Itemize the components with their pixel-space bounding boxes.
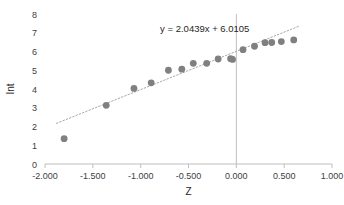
data-point xyxy=(215,56,222,63)
y-tick-label: 4 xyxy=(32,85,37,95)
x-axis-title: Z xyxy=(185,186,191,197)
data-point xyxy=(203,60,210,67)
data-point xyxy=(61,135,68,142)
data-point xyxy=(165,67,172,74)
data-point xyxy=(262,39,269,46)
data-point xyxy=(148,79,155,86)
y-tick-label: 1 xyxy=(32,141,37,151)
x-tick-label: -0.500 xyxy=(176,171,202,181)
x-tick-label: -1.500 xyxy=(80,171,106,181)
y-tick-label: 3 xyxy=(32,103,37,113)
x-tick-label: 0.000 xyxy=(225,171,248,181)
data-point xyxy=(190,60,197,67)
data-point xyxy=(268,39,275,46)
data-point xyxy=(240,46,247,53)
data-point xyxy=(251,43,258,50)
x-tick-label: -1.000 xyxy=(128,171,154,181)
y-tick-label: 0 xyxy=(32,160,37,170)
data-point xyxy=(229,56,236,63)
x-tick-label: -2.000 xyxy=(32,171,58,181)
y-tick-label: 7 xyxy=(32,28,37,38)
data-point xyxy=(178,66,185,73)
y-tick-label: 8 xyxy=(32,10,37,20)
x-tick-label: 1.000 xyxy=(321,171,344,181)
chart-canvas: -2.000-1.500-1.000-0.5000.0000.5001.0000… xyxy=(0,0,344,205)
y-axis-title: Int xyxy=(5,83,16,94)
x-tick-label: 0.500 xyxy=(273,171,296,181)
y-tick-label: 5 xyxy=(32,66,37,76)
data-point xyxy=(131,85,138,92)
y-tick-label: 6 xyxy=(32,47,37,57)
data-point xyxy=(103,102,110,109)
y-tick-label: 2 xyxy=(32,122,37,132)
trendline-equation: y = 2.0439x + 6.0105 xyxy=(160,23,249,34)
data-point xyxy=(290,36,297,43)
scatter-chart: -2.000-1.500-1.000-0.5000.0000.5001.0000… xyxy=(0,0,344,205)
data-point xyxy=(278,38,285,45)
